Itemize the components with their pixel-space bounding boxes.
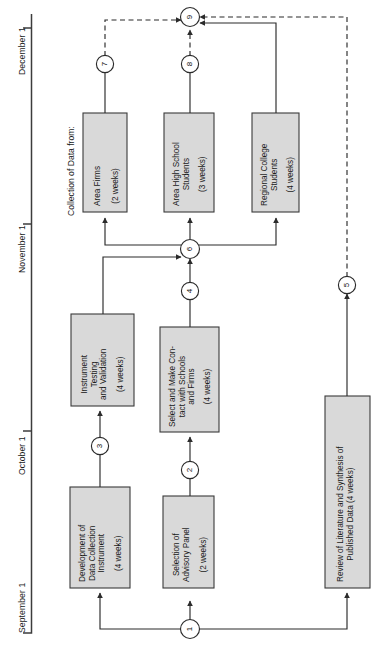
edge-instrument-testing-to-6 — [103, 257, 181, 314]
task-line: Area High School — [172, 142, 182, 206]
node-2-label: 2 — [182, 462, 198, 478]
node-1-label: 1 — [182, 621, 198, 637]
task-line: Review of Literature and Synthesis of — [336, 446, 346, 582]
task-line: and Firms — [187, 346, 197, 427]
task-duration: (2 weeks) — [199, 527, 209, 582]
task-label-instrument-testing-and-validation: Instrument Testing and Validation (4 wee… — [80, 349, 126, 400]
task-line: Instrument — [80, 349, 90, 400]
task-duration: (4 weeks) — [114, 525, 124, 582]
task-line: Students — [270, 144, 280, 206]
task-duration: (3 weeks) — [198, 142, 208, 206]
task-duration: (4 weeks) — [116, 349, 126, 400]
edge-regional-college-to-9 — [200, 23, 276, 113]
task-line: Students — [182, 142, 192, 206]
task-duration: (2 weeks) — [111, 166, 121, 206]
task-duration: (4 weeks) — [203, 346, 213, 427]
node-3-label: 3 — [92, 438, 108, 454]
task-duration: (4 weeks) — [286, 144, 296, 206]
axis-tick-label-november: November 1 — [17, 225, 27, 273]
edge-6-to-area-firms — [105, 218, 181, 245]
task-line: Regional College — [260, 144, 270, 206]
axis-tick-label-october: October 1 — [17, 436, 27, 475]
task-line: Testing — [90, 349, 100, 400]
task-label-selection-of-advisory-panel: Selection of Advisory Panel (2 weeks) — [172, 527, 209, 582]
node-8-label: 8 — [182, 56, 198, 72]
node-9-label: 9 — [182, 9, 198, 25]
task-line: and Validation — [99, 349, 109, 400]
axis-tick-label-september: September 1 — [17, 583, 27, 633]
task-line: Development of — [78, 525, 88, 582]
task-line: Instrument — [97, 525, 107, 582]
node-7-label: 7 — [97, 56, 113, 72]
task-line: Area Firms — [93, 166, 103, 206]
node-5-label: 5 — [339, 277, 355, 293]
node-6-label: 6 — [182, 241, 198, 257]
network-edges — [100, 17, 347, 629]
edge-7-upper-dashed — [105, 20, 181, 56]
task-label-area-high-school-students: Area High School Students (3 weeks) — [172, 142, 208, 206]
task-line: Data Collection — [88, 525, 98, 582]
task-label-select-and-make-contact: Select and Make Con- tact with Schools a… — [168, 346, 213, 427]
diagram-canvas: September 1 October 1 November 1 Decembe… — [0, 0, 382, 653]
task-line: Advisory Panel — [182, 527, 192, 582]
axis-tick-label-december: December 1 — [17, 27, 27, 75]
edge-1-to-development — [100, 593, 180, 629]
task-line: Published Data (4 weeks) — [346, 446, 356, 582]
timeline-axis — [23, 14, 32, 633]
task-label-development-of-data-collection-instrument: Development of Data Collection Instrumen… — [78, 525, 124, 582]
group-label-collection-of-data: Collection of Data from: — [66, 126, 76, 216]
task-label-area-firms: Area Firms (2 weeks) — [93, 166, 120, 206]
task-line: tact with Schools — [178, 346, 188, 427]
edge-1-to-review — [200, 593, 347, 629]
task-line: Selection of — [172, 527, 182, 582]
task-line: Select and Make Con- — [168, 346, 178, 427]
node-4-label: 4 — [182, 283, 198, 299]
task-label-review-of-literature: Review of Literature and Synthesis of Pu… — [336, 446, 355, 582]
task-label-regional-college-students: Regional College Students (4 weeks) — [260, 144, 296, 206]
edge-6-to-regional-college — [199, 218, 276, 245]
